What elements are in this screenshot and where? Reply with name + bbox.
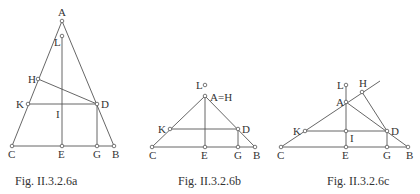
point-label: L [196,79,203,91]
segment-HD [362,92,387,131]
figure-a: ALHKDICEGBFig. II.3.2.6a [8,6,119,188]
point-label: I [56,108,60,120]
point-label: H [28,73,36,85]
point-D [385,129,389,133]
point-H [36,77,40,81]
point-label: H [359,77,367,89]
point-label: A=H [210,91,232,103]
figure-caption: Fig. II.3.2.6b [178,174,241,188]
point-A [344,100,348,104]
point-label: C [149,149,156,161]
point-A [203,94,207,98]
point-label: K [158,123,166,135]
segment-AC [152,96,205,147]
point-label: E [58,148,65,160]
geometry-diagram: ALHKDICEGBFig. II.3.2.6a LA=HKDCEGBFig. … [0,0,420,194]
point-label: L [337,79,344,91]
point-label: D [391,125,399,137]
point-label: C [277,149,284,161]
point-K [168,127,172,131]
point-I [344,129,348,133]
point-label: I [350,132,354,144]
point-label: A [58,6,66,18]
point-label: K [16,98,24,110]
point-label: B [253,149,260,161]
point-label: G [383,149,391,161]
point-A [60,19,64,23]
point-D [236,127,240,131]
figure-caption: Fig. II.3.2.6c [327,174,389,188]
point-label: C [8,148,15,160]
figure-c: LHAKDICEGBFig. II.3.2.6c [277,77,413,188]
point-K [26,102,30,106]
point-label: G [93,148,101,160]
point-label: A [336,96,344,108]
point-L [203,83,207,87]
point-D [95,102,99,106]
point-label: E [342,149,349,161]
point-label: D [242,123,250,135]
point-label: G [234,149,242,161]
point-label: K [293,125,301,137]
segment-AB [205,96,255,147]
point-label: B [406,149,413,161]
segment-CX [281,81,380,147]
point-K [303,129,307,133]
point-H [360,90,364,94]
point-L [60,34,64,38]
point-L [344,83,348,87]
figure-b: LA=HKDCEGBFig. II.3.2.6b [149,79,260,188]
point-label: E [201,149,208,161]
point-label: B [112,148,119,160]
point-label: D [101,98,109,110]
figure-caption: Fig. II.3.2.6a [15,174,78,188]
segment-AB [62,21,114,146]
point-label: L [54,36,61,48]
